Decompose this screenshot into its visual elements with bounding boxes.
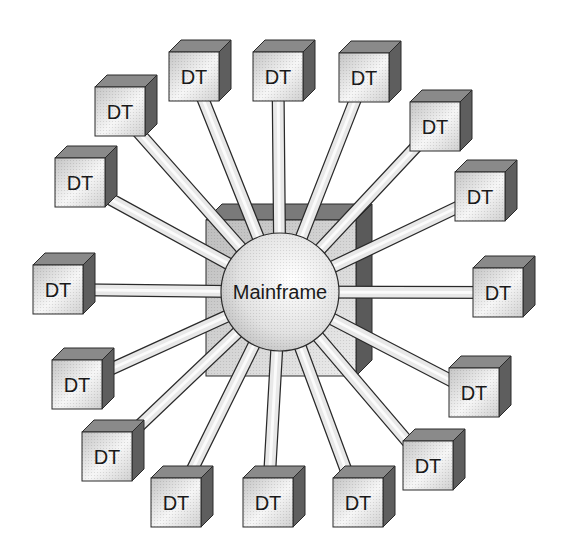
terminal-label: DT [415, 455, 442, 477]
mainframe-hub: Mainframe [221, 233, 339, 351]
terminal-dt: DT [333, 466, 395, 527]
terminal-dt: DT [449, 356, 511, 417]
terminal-label: DT [265, 66, 292, 88]
terminal-label: DT [107, 101, 134, 123]
mainframe-label: Mainframe [233, 281, 327, 303]
terminal-dt: DT [243, 466, 305, 527]
terminal-dt: DT [253, 40, 315, 101]
terminal-label: DT [255, 492, 282, 514]
star-topology-svg: Mainframe DTDTDTDTDTDTDTDTDTDTDTDTDTDTDT… [0, 0, 565, 550]
terminal-label: DT [45, 279, 72, 301]
terminal-label: DT [422, 116, 449, 138]
terminal-label: DT [345, 492, 372, 514]
terminal-label: DT [94, 446, 121, 468]
terminal-label: DT [163, 492, 190, 514]
terminal-label: DT [64, 374, 91, 396]
terminal-dt: DT [473, 256, 535, 317]
terminal-dt: DT [151, 466, 213, 527]
terminal-dt: DT [95, 75, 157, 136]
terminal-dt: DT [55, 146, 117, 207]
network-diagram: Mainframe DTDTDTDTDTDTDTDTDTDTDTDTDTDTDT… [0, 0, 565, 550]
terminal-dt: DT [82, 420, 144, 481]
terminal-dt: DT [169, 40, 231, 101]
terminal-label: DT [67, 172, 94, 194]
terminal-dt: DT [403, 429, 465, 490]
terminal-dt: DT [455, 160, 517, 221]
terminal-dt: DT [33, 253, 95, 314]
terminal-dt: DT [52, 348, 114, 409]
terminal-label: DT [461, 382, 488, 404]
terminal-dt: DT [339, 41, 401, 102]
terminal-label: DT [351, 67, 378, 89]
terminal-dt: DT [410, 90, 472, 151]
terminal-label: DT [467, 186, 494, 208]
terminal-label: DT [181, 66, 208, 88]
terminal-label: DT [485, 282, 512, 304]
